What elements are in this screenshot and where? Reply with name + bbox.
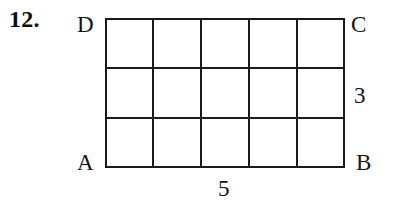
vertex-label-b: B <box>356 151 371 174</box>
measurement-height-label: 3 <box>354 84 366 107</box>
vertex-label-c: C <box>351 13 366 36</box>
figure-canvas: 12. D C A B 3 5 <box>0 0 393 211</box>
vertex-label-d: D <box>77 13 94 36</box>
vertex-label-a: A <box>77 151 94 174</box>
problem-number: 12. <box>9 7 40 31</box>
measurement-width-label: 5 <box>218 177 230 200</box>
grid-rectangle-svg <box>105 18 345 168</box>
grid-rectangle <box>105 18 345 168</box>
rectangle-outline <box>106 19 344 167</box>
